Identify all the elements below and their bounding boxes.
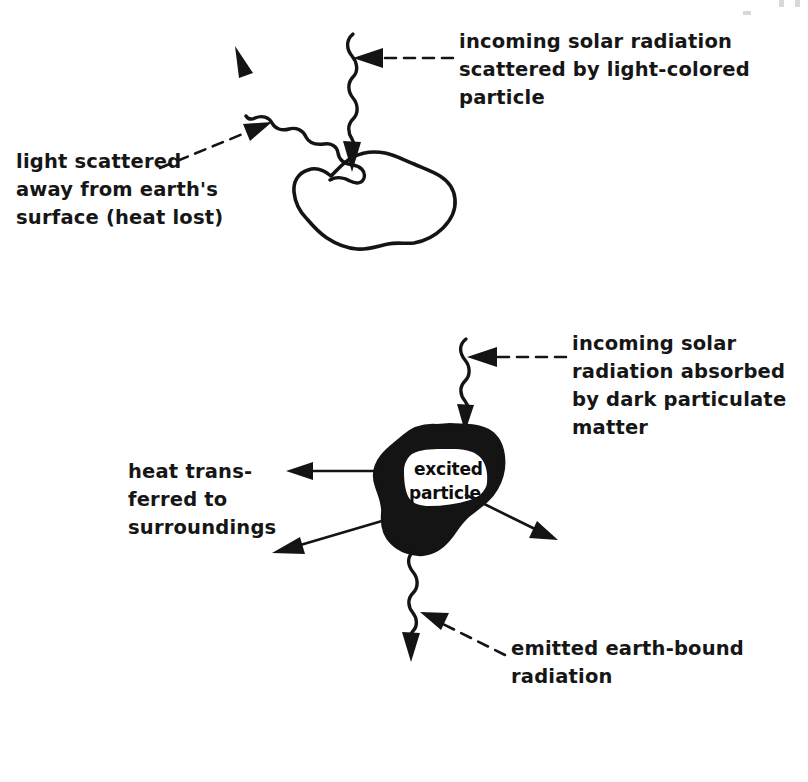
absorbed-label-line-4: matter bbox=[572, 416, 648, 439]
heat-transferred-label-line-1: heat trans- bbox=[128, 460, 252, 483]
radiation-particle-diagram: incoming solar radiation scattered by li… bbox=[0, 0, 808, 782]
absorbed-label-line-2: radiation absorbed bbox=[572, 360, 785, 383]
heat-transferred-label-line-2: ferred to bbox=[128, 488, 227, 511]
excited-particle-label-line-2: particle bbox=[409, 483, 481, 503]
incoming-scattered-label-line-1: incoming solar radiation bbox=[459, 30, 732, 53]
excited-particle-label-line-1: excited bbox=[414, 459, 483, 479]
scattered-away-label-line-3: surface (heat lost) bbox=[16, 206, 223, 229]
incoming-scattered-label-line-2: scattered by light-colored bbox=[459, 58, 750, 81]
incoming-scattered-label-line-3: particle bbox=[459, 86, 545, 109]
diagram-root: incoming solar radiation scattered by li… bbox=[0, 0, 808, 782]
heat-transferred-label-line-3: surroundings bbox=[128, 516, 276, 539]
absorbed-label-line-1: incoming solar bbox=[572, 332, 737, 355]
emitted-radiation-label-line-1: emitted earth-bound bbox=[511, 637, 744, 660]
emitted-radiation-label-line-2: radiation bbox=[511, 665, 613, 688]
scattered-away-label-line-2: away from earth's bbox=[16, 178, 218, 201]
absorbed-label-line-3: by dark particulate bbox=[572, 388, 786, 411]
scattered-away-label-line-1: light scattered bbox=[16, 150, 181, 173]
